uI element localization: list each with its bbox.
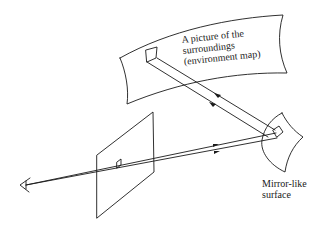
view-ray-upper	[26, 133, 276, 185]
mirror-patch	[273, 126, 283, 137]
reflected-ray-lower	[147, 62, 268, 137]
image-plane	[97, 112, 154, 218]
mirror-label-line-1: Mirror-like	[262, 178, 307, 189]
view-ray-lower	[26, 138, 277, 185]
mirror-label: Mirror-like surface	[262, 178, 307, 200]
eye-icon	[20, 178, 30, 192]
mirror-surface	[262, 113, 303, 172]
diagram-canvas: A picture of the surroundings (environme…	[0, 0, 322, 235]
mirror-label-line-2: surface	[262, 189, 307, 200]
view-ray-arrow-lower	[214, 151, 220, 154]
pixel	[117, 159, 121, 168]
environment-map-patch	[146, 47, 157, 62]
reflected-ray-arrow-upper	[214, 93, 221, 98]
